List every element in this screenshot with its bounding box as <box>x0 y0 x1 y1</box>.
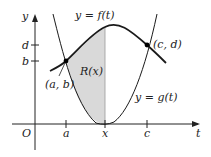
tick-label-x: x <box>102 127 109 140</box>
y-axis-label: y <box>21 10 29 23</box>
tick-label-b: b <box>22 55 29 68</box>
origin-label: O <box>22 127 31 140</box>
tick-label-a: a <box>63 127 70 140</box>
tick-label-c: c <box>144 127 150 140</box>
curve-g-label: y = g(t) <box>134 91 177 104</box>
tick-label-d: d <box>22 39 29 52</box>
point-a-b <box>64 59 69 64</box>
y-axis-arrow-icon <box>32 14 38 22</box>
x-axis-label: t <box>196 127 201 140</box>
area-between-curves-diagram: y t O a x c d b y = f(t) y = g(t) (a, b)… <box>0 0 211 157</box>
point-c-d <box>145 43 150 48</box>
curve-f-label: y = f(t) <box>74 9 115 22</box>
region-label: R(x) <box>79 65 103 78</box>
point-c-d-label: (c, d) <box>153 38 182 51</box>
point-a-b-label: (a, b) <box>45 78 74 91</box>
